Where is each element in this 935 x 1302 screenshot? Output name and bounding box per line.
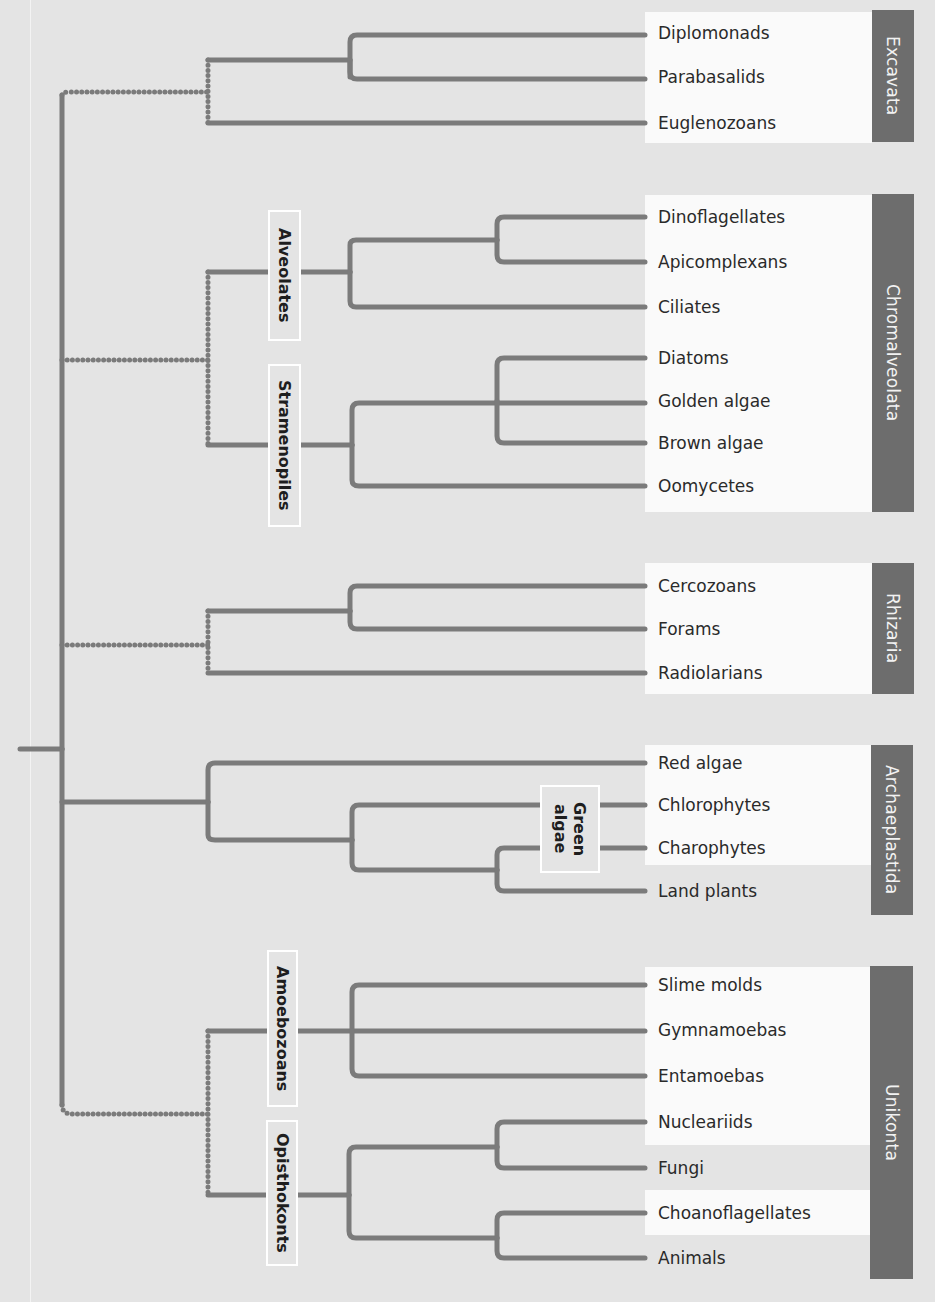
leaf-label: Land plants <box>658 881 757 901</box>
leaf-label: Charophytes <box>658 838 766 858</box>
branch <box>497 401 645 443</box>
clade-name: Green algae <box>551 802 589 856</box>
leaf-label: Red algae <box>658 753 743 773</box>
branch <box>352 805 645 840</box>
clade-label-alveolates: Alveolates <box>268 210 301 341</box>
clade-label-stramenopiles: Stramenopiles <box>268 364 301 527</box>
supergroup-label-excavata: Excavata <box>872 10 914 142</box>
leaf-label: Diplomonads <box>658 23 770 43</box>
branch <box>497 1147 645 1168</box>
leaf-label: Golden algae <box>658 391 771 411</box>
supergroup-label-archaeplastida: Archaeplastida <box>871 745 913 915</box>
clade-name: Alveolates <box>275 228 294 322</box>
clade-label-opisthokonts: Opisthokonts <box>266 1120 298 1266</box>
supergroup-name: Rhizaria <box>883 593 903 663</box>
branch <box>497 358 645 401</box>
leaf-label: Forams <box>658 619 720 639</box>
supergroup-label-rhizaria: Rhizaria <box>872 563 914 694</box>
phylogenetic-tree <box>0 0 935 1302</box>
supergroup-label-chromalveolata: Chromalveolata <box>872 194 914 512</box>
clade-name: Amoebozoans <box>273 966 292 1091</box>
branch <box>352 985 645 1031</box>
branch <box>497 1122 645 1147</box>
uncertain-branch <box>62 92 208 95</box>
leaf-label: Animals <box>658 1248 726 1268</box>
supergroup-name: Excavata <box>883 36 903 115</box>
branch <box>349 1195 497 1238</box>
branch <box>208 802 352 840</box>
branch <box>497 1238 645 1258</box>
branch <box>497 1213 645 1238</box>
branch <box>350 35 645 77</box>
branch <box>352 1031 645 1076</box>
supergroup-name: Chromalveolata <box>883 284 903 421</box>
branch <box>497 240 645 262</box>
leaf-label: Cercozoans <box>658 576 756 596</box>
leaf-label: Dinoflagellates <box>658 207 785 227</box>
leaf-label: Euglenozoans <box>658 113 776 133</box>
clade-label-green-algae: Green algae <box>540 785 600 873</box>
leaf-label: Slime molds <box>658 975 762 995</box>
branch <box>497 870 645 891</box>
leaf-label: Parabasalids <box>658 67 765 87</box>
clade-name: Opisthokonts <box>273 1133 292 1253</box>
uncertain-branch <box>62 1105 208 1114</box>
clade-label-amoebozoans: Amoebozoans <box>267 950 298 1107</box>
branch <box>352 840 497 870</box>
supergroup-name: Unikonta <box>882 1084 902 1161</box>
leaf-label: Ciliates <box>658 297 720 317</box>
leaf-label: Nucleariids <box>658 1112 753 1132</box>
leaf-label: Chlorophytes <box>658 795 770 815</box>
branch <box>350 272 645 307</box>
branch <box>350 60 645 79</box>
branch <box>349 1147 497 1195</box>
branch <box>352 445 645 486</box>
leaf-label: Apicomplexans <box>658 252 787 272</box>
branch <box>350 240 497 272</box>
leaf-label: Entamoebas <box>658 1066 764 1086</box>
leaf-label: Choanoflagellates <box>658 1203 811 1223</box>
leaf-label: Gymnamoebas <box>658 1020 786 1040</box>
branch <box>350 611 645 629</box>
supergroup-label-unikonta: Unikonta <box>870 966 913 1279</box>
clade-name: Stramenopiles <box>275 380 294 511</box>
dotted-branches <box>62 60 208 1195</box>
leaf-label: Brown algae <box>658 433 764 453</box>
leaf-label: Oomycetes <box>658 476 754 496</box>
branch <box>350 586 645 611</box>
branch <box>497 217 645 240</box>
leaf-label: Radiolarians <box>658 663 763 683</box>
supergroup-name: Archaeplastida <box>882 765 902 894</box>
leaf-label: Fungi <box>658 1158 704 1178</box>
leaf-label: Diatoms <box>658 348 729 368</box>
